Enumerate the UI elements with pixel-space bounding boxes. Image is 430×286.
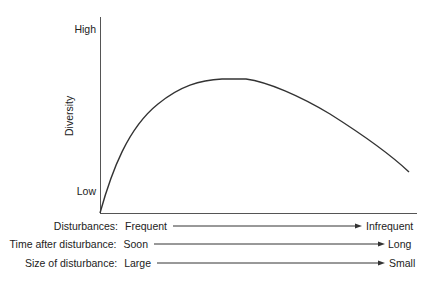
time-end: Long <box>388 238 411 250</box>
time-start: Soon <box>123 238 148 250</box>
disturbances-start: Frequent <box>125 220 167 232</box>
size-label: Size of disturbance: Large <box>0 257 151 269</box>
diversity-curve <box>100 79 409 213</box>
disturbances-end: Infrequent <box>366 220 413 232</box>
disturbances-name: Disturbances: <box>54 220 118 232</box>
time-label: Time after disturbance: Soon <box>0 238 148 250</box>
size-end: Small <box>389 257 415 269</box>
time-name: Time after disturbance: <box>10 238 117 250</box>
size-arrowhead-icon <box>378 261 385 266</box>
size-name: Size of disturbance: <box>25 257 117 269</box>
disturbances-label: Disturbances: Frequent <box>0 220 167 232</box>
size-start: Large <box>124 257 151 269</box>
y-low-label: Low <box>60 185 96 197</box>
y-axis-title: Diversity <box>63 96 75 136</box>
disturbances-arrowhead-icon <box>355 224 362 229</box>
y-high-label: High <box>60 23 96 35</box>
time-arrowhead-icon <box>378 242 385 247</box>
